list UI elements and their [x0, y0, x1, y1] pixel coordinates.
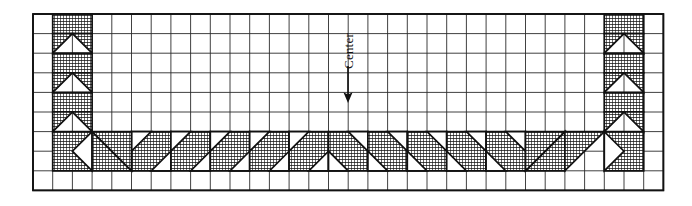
- solid-unit: [604, 14, 643, 34]
- solid-unit: [604, 53, 643, 73]
- hst-unit: [72, 73, 92, 93]
- hst-unit: [72, 34, 92, 54]
- hst-unit: [53, 34, 73, 54]
- center-arrow: [343, 66, 352, 103]
- solid-unit: [53, 14, 92, 34]
- hst-unit: [604, 34, 624, 54]
- hst-unit: [604, 112, 624, 132]
- hst-unit: [604, 73, 624, 93]
- hst-unit: [624, 112, 644, 132]
- hst-unit: [624, 73, 644, 93]
- solid-unit: [53, 53, 92, 73]
- quilt-layout-drawing: [0, 0, 692, 206]
- hst-unit: [624, 34, 644, 54]
- solid-unit: [53, 92, 92, 112]
- hst-unit: [53, 73, 73, 93]
- solid-unit: [604, 92, 643, 112]
- quilt-diagram-figure: Center: [0, 0, 692, 206]
- hst-unit: [72, 112, 92, 132]
- hst-unit: [53, 112, 73, 132]
